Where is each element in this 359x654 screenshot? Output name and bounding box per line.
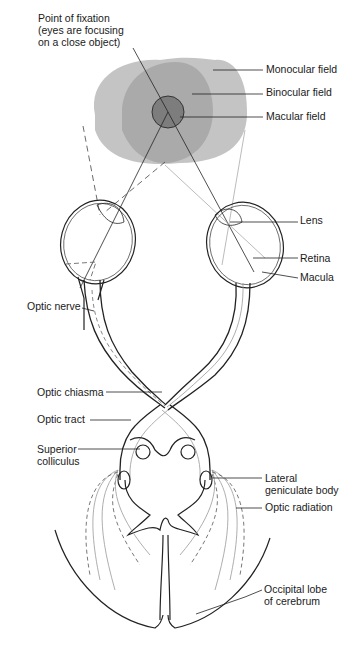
optic-nerves — [84, 280, 250, 480]
label-occipital-lobe-2: of cerebrum — [264, 595, 320, 607]
label-point-of-fixation-3: on a close object) — [38, 36, 120, 48]
right-eye — [197, 194, 293, 297]
label-point-of-fixation-2: (eyes are focusing — [38, 24, 124, 36]
midbrain — [118, 438, 212, 620]
optic-radiation — [86, 470, 244, 590]
label-optic-radiation: Optic radiation — [265, 501, 333, 513]
label-superior-colliculus-2: colliculus — [37, 455, 80, 467]
visual-field-group — [94, 58, 247, 164]
label-point-of-fixation-1: Point of fixation — [38, 12, 110, 24]
label-optic-tract: Optic tract — [37, 413, 85, 425]
label-optic-nerve: Optic nerve — [27, 300, 81, 312]
label-macula: Macula — [300, 271, 334, 283]
label-lateral-geniculate-2: geniculate body — [265, 484, 339, 496]
diagram-drawing — [0, 0, 359, 654]
label-binocular-field: Binocular field — [266, 86, 332, 98]
label-monocular-field: Monocular field — [266, 63, 337, 75]
label-occipital-lobe-1: Occipital lobe — [264, 583, 327, 595]
label-lateral-geniculate-1: Lateral — [265, 472, 297, 484]
label-retina: Retina — [300, 252, 330, 264]
label-superior-colliculus-1: Superior — [37, 443, 77, 455]
label-optic-chiasma: Optic chiasma — [37, 386, 104, 398]
label-lens: Lens — [300, 214, 323, 226]
label-macular-field: Macular field — [266, 110, 326, 122]
visual-pathway-diagram: Point of fixation (eyes are focusing on … — [0, 0, 359, 654]
